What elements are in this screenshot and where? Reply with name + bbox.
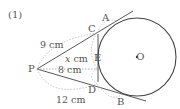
- point-label-p: P: [28, 64, 35, 74]
- measurement-pd: 12 cm: [56, 95, 85, 105]
- point-label-d: D: [88, 85, 96, 95]
- dotted-arc-ed: [92, 69, 98, 84]
- problem-label: (1): [8, 10, 22, 20]
- point-label-o: O: [133, 52, 144, 62]
- point-label-b: B: [117, 97, 124, 107]
- measurement-pe-x: x cm: [65, 54, 88, 64]
- point-label-c: C: [88, 24, 96, 34]
- point-label-a: A: [102, 13, 109, 23]
- measurement-pc: 9 cm: [40, 40, 63, 50]
- dotted-arc-ce: [92, 33, 98, 69]
- measurement-pe-8: 8 cm: [58, 65, 81, 75]
- point-label-e: E: [94, 53, 101, 63]
